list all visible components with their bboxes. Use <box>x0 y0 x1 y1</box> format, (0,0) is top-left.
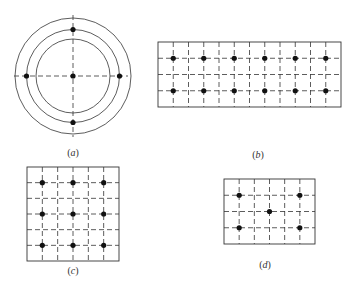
dot-marker <box>237 225 242 230</box>
dot-marker <box>293 88 298 93</box>
dot-marker <box>267 209 272 214</box>
figure-canvas <box>0 0 347 282</box>
dot-marker <box>293 56 298 61</box>
dot-marker <box>70 27 75 32</box>
dot-marker <box>101 243 106 248</box>
dot-marker <box>70 73 75 78</box>
panel-b-grid-12x4 <box>158 42 341 107</box>
panel-label-a: (a) <box>67 147 79 158</box>
dot-marker <box>171 56 176 61</box>
dot-marker <box>40 243 45 248</box>
dot-marker <box>40 211 45 216</box>
dot-marker <box>201 88 206 93</box>
panel-d-grid-6x4 <box>224 179 315 244</box>
dot-marker <box>117 73 122 78</box>
panel-label-c: (c) <box>67 265 78 276</box>
dot-marker <box>232 88 237 93</box>
panel-label-c-letter: c <box>71 265 75 276</box>
panel-label-d: (d) <box>259 259 271 270</box>
dot-marker <box>101 180 106 185</box>
dot-marker <box>70 180 75 185</box>
dot-marker <box>70 120 75 125</box>
dot-marker <box>201 56 206 61</box>
panel-label-b: (b) <box>252 149 264 160</box>
dot-marker <box>323 88 328 93</box>
dot-marker <box>237 193 242 198</box>
dot-marker <box>70 211 75 216</box>
dot-marker <box>171 88 176 93</box>
panel-a-concentric-circles <box>14 15 131 137</box>
panel-label-b-letter: b <box>256 149 261 160</box>
panel-c-grid-6x6 <box>27 167 119 261</box>
dot-marker <box>70 243 75 248</box>
dot-marker <box>24 73 29 78</box>
dot-marker <box>262 56 267 61</box>
dot-marker <box>101 211 106 216</box>
panel-label-a-letter: a <box>71 147 76 158</box>
dot-marker <box>297 193 302 198</box>
panel-label-d-letter: d <box>263 259 268 270</box>
dot-marker <box>40 180 45 185</box>
dot-marker <box>232 56 237 61</box>
dot-marker <box>262 88 267 93</box>
dot-marker <box>297 225 302 230</box>
dot-marker <box>323 56 328 61</box>
